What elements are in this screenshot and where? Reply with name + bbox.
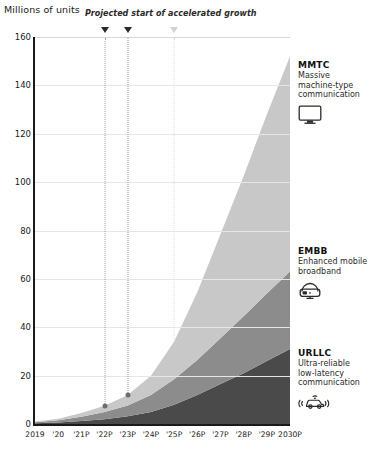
y-axis-tick: 120 <box>15 129 31 139</box>
legend-item-embb: EMBBEnhanced mobile broadband <box>298 246 368 303</box>
vr-headset-icon <box>298 281 368 303</box>
y-axis-tick: 60 <box>20 274 31 284</box>
gridline <box>35 85 290 86</box>
x-axis-tick: '20 <box>52 430 64 439</box>
legend-description: Enhanced mobile broadband <box>298 257 368 276</box>
y-axis-tick: 80 <box>20 226 31 236</box>
plot-area <box>35 37 290 424</box>
x-axis-tick: '26P <box>189 430 205 439</box>
x-axis-tick: '27P <box>212 430 228 439</box>
legend-title: MMTC <box>298 60 368 70</box>
gridline <box>35 231 290 232</box>
gridline <box>35 279 290 280</box>
annotation-dropline <box>104 38 105 406</box>
x-axis-tick: '28P <box>235 430 251 439</box>
annotation-marker-25P <box>170 27 178 33</box>
triangle-down-icon <box>124 27 132 33</box>
annotation-label: Projected start of accelerated growth <box>85 9 257 18</box>
legend-title: EMBB <box>298 246 368 256</box>
x-axis-tick: '21P <box>73 430 89 439</box>
annotation-point <box>125 392 130 397</box>
gridline <box>35 327 290 328</box>
gridline <box>35 37 290 38</box>
x-axis-tick: 2019 <box>25 430 44 439</box>
annotation-dropline <box>174 38 175 342</box>
x-axis-tick: '29P <box>259 430 275 439</box>
x-axis-line <box>33 424 290 426</box>
gridline <box>35 182 290 183</box>
y-axis-tick: 20 <box>20 371 31 381</box>
annotation-marker-22P <box>101 27 109 33</box>
annotation-marker-23P <box>124 27 132 33</box>
connected-car-icon <box>298 393 368 411</box>
monitor-icon <box>298 105 368 125</box>
triangle-down-icon <box>101 27 109 33</box>
annotation-point <box>102 403 107 408</box>
x-axis-tick: '25P <box>166 430 182 439</box>
y-axis-tick: 40 <box>20 322 31 332</box>
annotation-dropline <box>127 38 128 395</box>
x-axis-tick: '23P <box>120 430 136 439</box>
legend-description: Massive machine-type communication <box>298 71 368 100</box>
legend-item-urllc: URLLCUltra-reliable low-latency communic… <box>298 348 368 411</box>
y-axis-line <box>33 37 35 425</box>
legend-description: Ultra-reliable low-latency communication <box>298 359 368 388</box>
triangle-down-icon <box>170 27 178 33</box>
legend-title: URLLC <box>298 348 368 358</box>
gridline <box>35 376 290 377</box>
y-axis-tick: 160 <box>15 32 31 42</box>
y-axis-tick: 140 <box>15 80 31 90</box>
y-axis-tick: 0 <box>26 419 31 429</box>
y-axis-tick: 100 <box>15 177 31 187</box>
x-axis-tick: '22P <box>96 430 112 439</box>
gridline <box>35 134 290 135</box>
legend-item-mmtc: MMTCMassive machine-type communication <box>298 60 368 125</box>
y-axis-tick-labels: 020406080100120140160 <box>0 0 31 449</box>
x-axis-tick: 2030P <box>278 430 302 439</box>
x-axis-tick: '24P <box>143 430 159 439</box>
